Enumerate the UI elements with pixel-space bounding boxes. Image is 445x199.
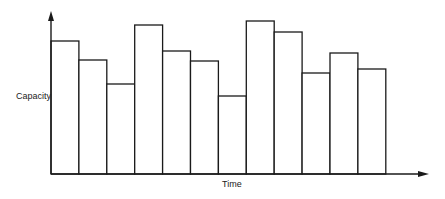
bar-2	[79, 60, 107, 174]
bar-10	[302, 73, 330, 174]
bar-6	[191, 61, 219, 174]
bar-7	[218, 96, 246, 174]
x-axis-label: Time	[222, 179, 242, 189]
bar-12	[358, 69, 386, 174]
bar-3	[107, 84, 135, 174]
bar-11	[330, 53, 358, 174]
bars-group	[51, 21, 386, 174]
bar-1	[51, 41, 79, 174]
bar-8	[246, 21, 274, 174]
y-axis-label: Capacity	[16, 91, 51, 101]
bar-5	[163, 51, 191, 174]
bar-9	[274, 32, 302, 174]
bar-4	[135, 25, 163, 174]
x-axis-arrow-icon	[418, 171, 429, 177]
y-axis-arrow-icon	[48, 11, 54, 21]
capacity-time-histogram	[0, 0, 445, 199]
